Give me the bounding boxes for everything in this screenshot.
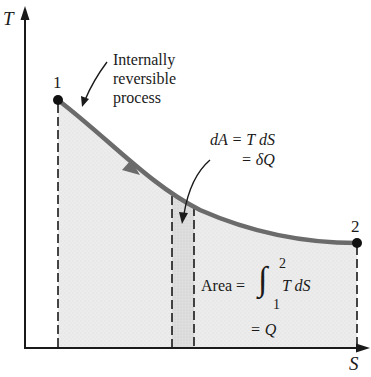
integral-upper-limit: 2	[279, 257, 286, 271]
state-point-2	[352, 238, 362, 248]
y-axis-arrow-icon	[21, 6, 30, 20]
integral-sign: ∫	[258, 262, 267, 296]
point-1-label: 1	[53, 74, 62, 91]
state-point-1	[53, 95, 63, 105]
x-axis-arrow-icon	[356, 344, 370, 353]
process-leader-arrow-icon	[81, 96, 89, 107]
ts-diagram: T S 1 2 Internally reversible process dA…	[0, 0, 371, 377]
diagram-canvas	[0, 0, 371, 377]
x-axis-label: S	[349, 354, 359, 373]
strip-annotation-line2: = δQ	[241, 150, 275, 169]
process-annotation-line3: process	[113, 88, 176, 107]
point-2-label: 2	[351, 218, 360, 235]
area-annotation-result: = Q	[250, 320, 276, 339]
process-leader-line	[85, 62, 107, 100]
process-annotation: Internally reversible process	[113, 50, 176, 107]
area-annotation-prefix: Area =	[201, 276, 245, 295]
process-annotation-line2: reversible	[113, 69, 176, 88]
strip-annotation-line1: dA = T dS	[210, 130, 275, 149]
y-axis-label: T	[3, 9, 14, 28]
integrand: T dS	[282, 276, 311, 295]
process-annotation-line1: Internally	[113, 50, 176, 69]
integral-lower-limit: 1	[273, 298, 280, 312]
